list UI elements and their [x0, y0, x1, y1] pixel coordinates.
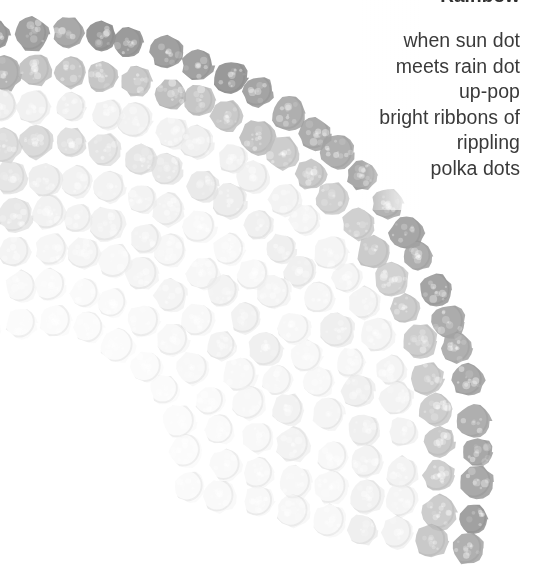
page-title: Rainbow — [190, 0, 520, 3]
poem-text: when sun dot meets rain dot up-pop brigh… — [190, 28, 520, 182]
poem-line: when sun dot — [190, 28, 520, 54]
poem-line: meets rain dot — [190, 54, 520, 80]
poem-line: bright ribbons of — [190, 105, 520, 131]
poem-page: Rainbow when sun dot meets rain dot up-p… — [0, 0, 538, 588]
poem-line: up-pop — [190, 79, 520, 105]
poem-line: rippling — [190, 130, 520, 156]
poem-line: polka dots — [190, 156, 520, 182]
page-title-clipped: Rainbow — [190, 0, 520, 3]
